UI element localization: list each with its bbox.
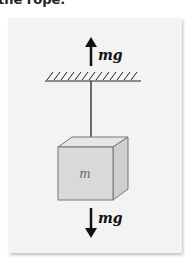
ceiling-support xyxy=(45,72,141,81)
mass-cube xyxy=(58,137,128,200)
lower-force-arrow xyxy=(85,208,97,238)
upper-force-arrow xyxy=(85,37,97,66)
lower-force-label: mg xyxy=(98,210,123,226)
free-body-diagram: mg m mg xyxy=(0,0,192,270)
mass-label: m xyxy=(79,167,90,181)
upper-force-label: mg xyxy=(98,47,123,63)
